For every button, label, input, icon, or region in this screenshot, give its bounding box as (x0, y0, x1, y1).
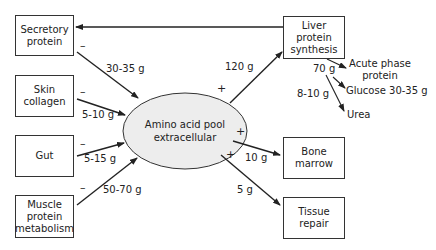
liver-label-3: synthesis (290, 44, 337, 55)
liver-protein-synthesis-box: Liverproteinsynthesis (283, 16, 345, 59)
acute-phase-protein-label: Acute phase protein (349, 58, 411, 82)
liver-plus-sign: + (217, 83, 226, 94)
tissue-repair-box: Tissuerepair (283, 197, 345, 239)
secretory-amount: 30-35 g (106, 63, 145, 75)
gut-label: Gut (35, 150, 53, 162)
pool-label-2: extracellular (154, 132, 217, 143)
pool-label-1: Amino acid pool (145, 119, 225, 130)
urea-amount: 8-10 g (297, 88, 329, 100)
skin-collagen-label-1: Skin (34, 84, 55, 95)
bone-marrow-box: Bonemarrow (283, 137, 345, 179)
tissue-repair-label-1: Tissue (298, 206, 330, 217)
amino-acid-pool-label: Amino acid pool extracellular (123, 118, 247, 144)
skin-collagen-box: Skincollagen (15, 75, 74, 117)
muscle-label-1: Muscle (27, 199, 62, 210)
muscle-amount: 50-70 g (103, 184, 142, 196)
bone-marrow-plus-sign: + (236, 126, 245, 137)
gut-minus-sign: – (80, 138, 86, 149)
secretory-protein-label-1: Secretory (20, 24, 68, 35)
bone-marrow-label-1: Bone (301, 146, 326, 157)
bone-marrow-label-2: marrow (295, 158, 333, 169)
acute-phase-line-1: Acute phase (349, 58, 411, 69)
tissue-repair-label-2: repair (299, 218, 328, 229)
bone-marrow-amount: 10 g (245, 152, 267, 164)
skin-collagen-label-2: collagen (23, 96, 65, 107)
tissue-repair-amount: 5 g (237, 184, 253, 196)
muscle-label-2: protein (27, 211, 63, 222)
acute-phase-line-2: protein (362, 70, 398, 81)
muscle-minus-sign: – (80, 182, 86, 193)
acute-phase-amount: 70 g (313, 63, 335, 75)
liver-label-1: Liver (302, 20, 327, 31)
gut-amount: 5-15 g (84, 153, 116, 165)
urea-label: Urea (347, 109, 371, 121)
gut-box: Gut (15, 135, 74, 177)
skin-minus-sign: – (80, 86, 86, 97)
secretory-protein-label-2: protein (27, 36, 63, 47)
secretory-minus-sign: – (80, 40, 86, 51)
tissue-repair-plus-sign: + (226, 149, 235, 160)
glucose-label: Glucose 30-35 g (346, 85, 428, 97)
muscle-protein-metabolism-box: Muscleproteinmetabolism (15, 195, 74, 238)
skin-amount: 5-10 g (82, 109, 114, 121)
secretory-protein-box: Secretoryprotein (15, 15, 74, 56)
muscle-label-3: metabolism (15, 223, 74, 234)
liver-label-2: protein (296, 32, 332, 43)
liver-amount: 120 g (225, 61, 254, 73)
